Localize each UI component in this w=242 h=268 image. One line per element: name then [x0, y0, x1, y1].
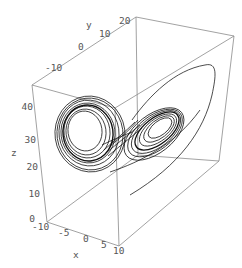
y-tick: 0 — [78, 41, 84, 52]
x-axis-label: x — [73, 249, 79, 260]
attractor-left-lobe — [50, 91, 130, 176]
x-axis-ticks: -10 -5 0 5 10 x — [32, 221, 125, 260]
z-tick: 10 — [29, 188, 41, 199]
attractor-outer-trajectory — [110, 65, 215, 195]
z-tick: 20 — [27, 161, 39, 172]
x-tick: -5 — [58, 227, 69, 238]
y-tick: -10 — [45, 62, 62, 73]
x-tick: 5 — [101, 239, 107, 250]
lorenz-3d-plot: -10 0 10 20 y 0 10 20 30 40 z -10 -5 0 5… — [0, 0, 242, 268]
z-axis-label: z — [11, 147, 17, 158]
x-tick: -10 — [32, 221, 49, 232]
z-tick: 40 — [22, 101, 34, 112]
x-tick: 10 — [113, 245, 125, 256]
y-axis-ticks: -10 0 10 20 y — [45, 15, 131, 73]
y-tick: 20 — [119, 15, 131, 26]
z-tick: 30 — [25, 134, 37, 145]
y-tick: 10 — [99, 28, 111, 39]
y-axis-label: y — [86, 19, 92, 30]
x-tick: 0 — [83, 233, 89, 244]
